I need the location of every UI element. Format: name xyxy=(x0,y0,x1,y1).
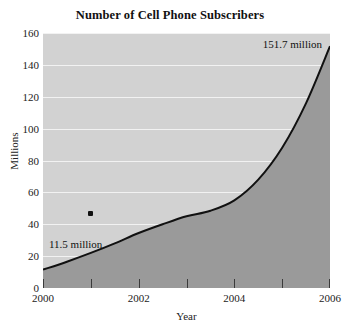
area-fill-path xyxy=(43,46,330,288)
plot-area: 151.7 million 11.5 million xyxy=(43,33,330,288)
chart-title: Number of Cell Phone Subscribers xyxy=(0,8,340,23)
y-tick-label: 160 xyxy=(1,28,39,39)
x-axis-tick xyxy=(187,279,188,288)
x-axis-tick xyxy=(234,279,235,288)
y-tick-label: 40 xyxy=(1,219,39,230)
x-tick-label: 2000 xyxy=(21,292,65,304)
y-tick-label: 80 xyxy=(1,156,39,167)
y-tick-label: 120 xyxy=(1,92,39,103)
x-tick-label: 2004 xyxy=(212,292,256,304)
y-tick-label: 140 xyxy=(1,60,39,71)
x-axis-tick xyxy=(43,279,44,288)
x-tick-label: 2006 xyxy=(308,292,352,304)
x-axis-tick xyxy=(139,279,140,288)
y-axis-title: Millions xyxy=(8,116,20,186)
chart-figure: Number of Cell Phone Subscribers 160 140… xyxy=(0,0,359,330)
data-point-marker xyxy=(88,211,93,216)
x-tick-label: 2002 xyxy=(117,292,161,304)
x-axis-title: Year xyxy=(43,310,330,322)
x-axis-tick xyxy=(282,279,283,288)
y-tick-label: 20 xyxy=(1,251,39,262)
start-value-annotation: 11.5 million xyxy=(49,238,102,250)
y-tick-label: 60 xyxy=(1,187,39,198)
y-tick-label: 100 xyxy=(1,124,39,135)
end-value-annotation: 151.7 million xyxy=(263,38,322,50)
x-axis-tick xyxy=(329,279,330,288)
x-axis-tick xyxy=(91,279,92,288)
x-axis-tick-labels: 2000 2002 2004 2006 xyxy=(43,292,330,308)
